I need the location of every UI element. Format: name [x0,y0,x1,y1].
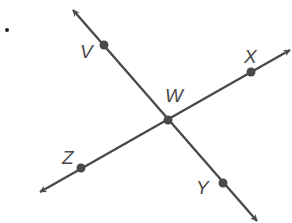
label-y: Y [196,177,210,198]
point-w [164,116,173,125]
list-marker-dot [5,28,9,32]
point-z [77,164,86,173]
point-y [219,179,228,188]
line-vy [73,10,257,221]
label-z: Z [61,147,75,168]
label-w: W [165,85,185,106]
label-x: X [243,46,258,67]
point-x [247,68,256,77]
point-v [100,41,109,50]
label-v: V [80,41,95,62]
intersecting-lines-diagram: V W X Y Z [0,0,292,223]
